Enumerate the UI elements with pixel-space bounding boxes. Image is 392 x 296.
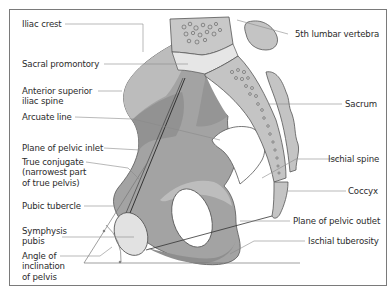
label-line: pubis [22, 236, 67, 246]
label-line: True conjugate [22, 157, 86, 167]
label-arcuate-line: Arcuate line [22, 112, 72, 122]
coccyx-bone [272, 182, 288, 218]
label-angle-of-inclination: Angle of inclination of pelvis [22, 251, 65, 282]
label-line: Symphysis [22, 226, 67, 236]
label-line: inclination [22, 261, 65, 271]
label-line: Anterior superior [22, 86, 92, 96]
spinous-process [245, 21, 278, 50]
label-line: of pelvis [22, 272, 65, 282]
label-line: Angle of [22, 251, 65, 261]
label-coccyx: Coccyx [348, 186, 378, 196]
label-plane-of-pelvic-outlet: Plane of pelvic outlet [293, 216, 380, 226]
label-line: iliac spine [22, 96, 92, 106]
label-ischial-spine: Ischial spine [328, 154, 379, 164]
label-true-conjugate: True conjugate (narrowest part of true p… [22, 157, 86, 188]
label-5th-lumbar-vertebra: 5th lumbar vertebra [295, 29, 379, 39]
label-iliac-crest: Iliac crest [22, 19, 62, 29]
label-line: (narrowest part [22, 167, 86, 177]
label-sacrum: Sacrum [345, 99, 377, 109]
label-sacral-promontory: Sacral promontory [22, 59, 99, 69]
label-line: of true pelvis) [22, 178, 86, 188]
label-anterior-superior-iliac-spine: Anterior superior iliac spine [22, 86, 92, 107]
label-pubic-tubercle: Pubic tubercle [22, 201, 81, 211]
label-symphysis-pubis: Symphysis pubis [22, 226, 67, 247]
label-ischial-tuberosity: Ischial tuberosity [308, 236, 379, 246]
label-plane-of-pelvic-inlet: Plane of pelvic inlet [22, 143, 103, 153]
